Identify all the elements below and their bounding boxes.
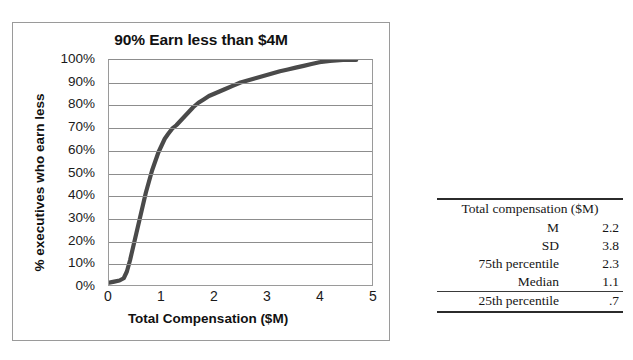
stats-table-header-row: Total compensation ($M) [437, 199, 623, 219]
gridline [109, 219, 372, 220]
x-axis-tick-labels: 012345 [108, 289, 373, 309]
stats-row-label: 25th percentile [437, 291, 573, 311]
x-axis-title: Total Compensation ($M) [73, 311, 343, 326]
stats-row-label: 75th percentile [437, 255, 573, 273]
gridline [109, 128, 372, 129]
gridline [109, 174, 372, 175]
stats-row-label: M [437, 219, 573, 237]
y-tick-label: 30% [39, 211, 95, 225]
y-tick-label: 20% [39, 234, 95, 248]
x-tick-label: 4 [305, 289, 335, 303]
stats-row-value: 1.1 [573, 273, 623, 291]
stats-table-container: Total compensation ($M) M2.2SD3.875th pe… [437, 198, 623, 313]
plot-area [108, 59, 373, 286]
stats-table-row: M2.2 [437, 219, 623, 237]
y-tick-label: 80% [39, 98, 95, 112]
stats-row-label: SD [437, 237, 573, 255]
x-tick-label: 2 [199, 289, 229, 303]
stats-row-value: 2.2 [573, 219, 623, 237]
y-tick-label: 100% [39, 52, 95, 66]
gridline [109, 196, 372, 197]
x-tick-label: 0 [93, 289, 123, 303]
stats-row-value: .7 [573, 291, 623, 311]
gridline [109, 242, 372, 243]
y-tick-label: 60% [39, 143, 95, 157]
y-tick-label: 10% [39, 257, 95, 271]
stats-table-row: SD3.8 [437, 237, 623, 255]
gridline [109, 83, 372, 84]
stats-table: Total compensation ($M) M2.2SD3.875th pe… [437, 198, 623, 313]
cumulative-distribution-curve [109, 60, 372, 285]
y-axis-tick-labels: 100%90%80%70%60%50%40%30%20%10%0% [39, 49, 95, 286]
stats-table-row: 25th percentile.7 [437, 291, 623, 311]
stats-table-row: Median1.1 [437, 273, 623, 291]
x-tick-label: 5 [358, 289, 388, 303]
y-tick-label: 40% [39, 188, 95, 202]
x-tick-label: 3 [252, 289, 282, 303]
stats-table-row: 75th percentile2.3 [437, 255, 623, 273]
stats-row-label: Median [437, 273, 573, 291]
gridline [109, 264, 372, 265]
stats-table-header-label: Total compensation ($M) [437, 199, 623, 219]
stats-row-value: 2.3 [573, 255, 623, 273]
chart-title: 90% Earn less than $4M [13, 31, 389, 49]
stats-table-body: Total compensation ($M) M2.2SD3.875th pe… [437, 199, 623, 312]
gridline [109, 151, 372, 152]
chart-panel: 90% Earn less than $4M % executives who … [12, 22, 390, 341]
y-tick-label: 50% [39, 166, 95, 180]
x-tick-label: 1 [146, 289, 176, 303]
y-tick-label: 0% [39, 279, 95, 293]
y-tick-label: 90% [39, 75, 95, 89]
stats-row-value: 3.8 [573, 237, 623, 255]
y-tick-label: 70% [39, 120, 95, 134]
gridline [109, 105, 372, 106]
